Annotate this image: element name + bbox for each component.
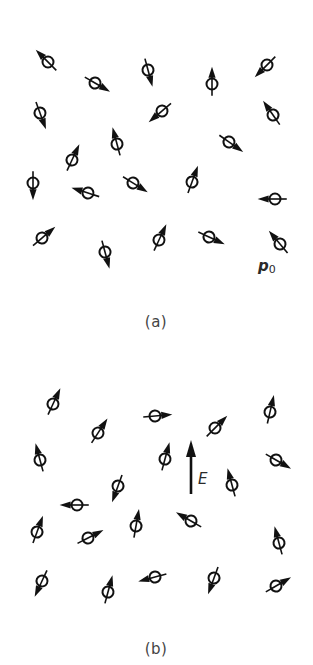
dipole-icon bbox=[43, 386, 65, 417]
dipole-icon bbox=[262, 394, 279, 425]
dipole-icon bbox=[173, 508, 204, 532]
dipole-icon bbox=[30, 568, 52, 599]
dipole-icon bbox=[107, 126, 125, 157]
dipole-icon bbox=[75, 525, 106, 548]
dipole-moment-label: p0 bbox=[258, 257, 276, 276]
dipole-icon bbox=[70, 182, 101, 201]
dipole-icon bbox=[30, 442, 48, 473]
dipole-icon bbox=[203, 412, 231, 440]
dipole-icon bbox=[203, 565, 223, 596]
dipole-moment-subscript: 0 bbox=[269, 263, 276, 276]
dipole-icon bbox=[140, 57, 158, 88]
dipole-icon bbox=[29, 223, 58, 250]
dipole-icon bbox=[183, 164, 203, 195]
dipole-diagram bbox=[0, 0, 313, 665]
dipole-icon bbox=[216, 131, 246, 157]
dipole-icon bbox=[263, 449, 294, 473]
dipole-icon bbox=[258, 194, 287, 205]
electric-field-arrow-icon bbox=[186, 440, 196, 494]
panel-b-caption: (b) bbox=[126, 640, 186, 658]
dipole-icon bbox=[222, 467, 240, 498]
dipole-icon bbox=[145, 99, 174, 126]
dipole-icon bbox=[87, 415, 112, 445]
dipole-icon bbox=[196, 227, 227, 249]
dipole-icon bbox=[263, 573, 294, 597]
dipole-icon bbox=[31, 100, 51, 131]
dipole-icon bbox=[100, 574, 118, 605]
dipole-icon bbox=[107, 473, 127, 504]
dipole-icon bbox=[251, 53, 279, 81]
dipole-icon bbox=[143, 409, 173, 422]
dipole-icon bbox=[120, 172, 151, 197]
dipole-icon bbox=[82, 72, 113, 96]
panel-b-aligned-dipoles bbox=[28, 386, 294, 605]
dipole-icon bbox=[265, 227, 292, 256]
dipole-icon bbox=[32, 46, 60, 74]
dipole-icon bbox=[60, 500, 89, 511]
dipole-icon bbox=[129, 508, 145, 539]
dipole-moment-symbol: p bbox=[258, 257, 269, 275]
electric-field-label: E bbox=[198, 470, 207, 488]
panel-a-random-dipoles bbox=[28, 46, 292, 270]
dipole-icon bbox=[97, 239, 115, 270]
dipole-icon bbox=[137, 569, 168, 587]
dipole-icon bbox=[207, 67, 218, 96]
dipole-icon bbox=[157, 441, 175, 472]
dipole-icon bbox=[62, 142, 84, 173]
dipole-icon bbox=[28, 514, 48, 545]
panel-a-caption: (a) bbox=[126, 313, 186, 331]
dipole-icon bbox=[259, 98, 285, 128]
dipole-icon bbox=[149, 222, 171, 253]
dipole-icon bbox=[269, 525, 287, 556]
dipole-icon bbox=[28, 171, 39, 200]
